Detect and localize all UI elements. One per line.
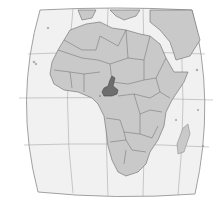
island-socotra — [196, 69, 198, 71]
island-cape-verde — [33, 61, 35, 63]
island-bioko — [99, 95, 101, 97]
island-cape-verde — [35, 63, 37, 65]
island-seychelles — [197, 109, 198, 110]
africa-map — [0, 0, 221, 210]
island-comoros — [175, 119, 176, 120]
island-canary — [47, 27, 49, 29]
island-mauritius — [202, 145, 203, 146]
